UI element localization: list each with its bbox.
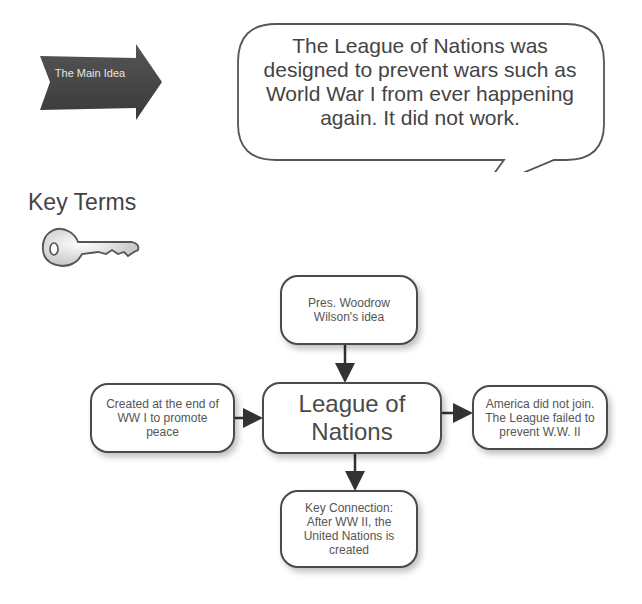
central-term-text: League of Nations xyxy=(264,390,440,446)
concept-box-central-term: League of Nations xyxy=(262,382,442,454)
concept-box-outcome: America did not join. The League failed … xyxy=(472,385,608,450)
concept-purpose-text: Created at the end of WW I to promote pe… xyxy=(104,397,221,439)
concept-outcome-text: America did not join. The League failed … xyxy=(482,397,598,439)
concept-box-purpose: Created at the end of WW I to promote pe… xyxy=(90,383,235,453)
concept-box-origin: Pres. Woodrow Wilson's idea xyxy=(280,275,418,345)
key-connection-text: Key Connection: After WW II, the United … xyxy=(294,501,404,557)
concept-origin-text: Pres. Woodrow Wilson's idea xyxy=(292,296,406,324)
concept-box-key-connection: Key Connection: After WW II, the United … xyxy=(280,490,418,568)
